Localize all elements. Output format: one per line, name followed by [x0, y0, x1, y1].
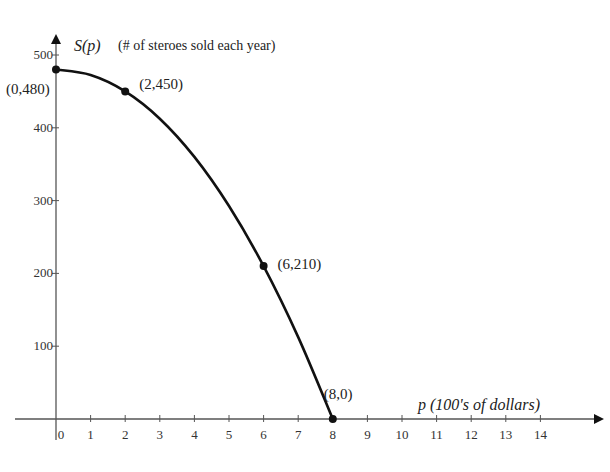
- y-axis-title-function: S(p): [74, 37, 101, 55]
- data-point-label: (0,480): [6, 81, 50, 98]
- x-tick-label: 8: [330, 427, 337, 442]
- x-tick-label: 12: [465, 427, 478, 442]
- y-tick-label: 400: [34, 120, 54, 135]
- curve-layer: [56, 70, 333, 419]
- data-point-label: (6,210): [278, 256, 322, 273]
- chart: 01234567891011121314100200300400500 (0,4…: [0, 0, 610, 472]
- x-axis-title: p (100's of dollars): [417, 396, 540, 414]
- x-axis-arrow-icon: [594, 414, 604, 424]
- x-tick-label: 14: [534, 427, 548, 442]
- y-tick-label: 500: [34, 47, 54, 62]
- x-tick-label: 13: [499, 427, 512, 442]
- y-tick-label: 300: [34, 193, 54, 208]
- y-axis-title-description: (# of steroes sold each year): [118, 38, 276, 54]
- x-tick-label: 7: [295, 427, 302, 442]
- x-tick-label: 0: [58, 427, 65, 442]
- x-tick-label: 9: [364, 427, 371, 442]
- axes: [15, 34, 604, 440]
- data-point-marker: [121, 87, 129, 95]
- x-tick-label: 11: [430, 427, 443, 442]
- curve-s-of-p: [56, 70, 333, 419]
- y-tick-label: 200: [34, 265, 54, 280]
- x-tick-label: 5: [226, 427, 233, 442]
- data-point-label: (2,450): [139, 76, 183, 93]
- x-tick-label: 3: [157, 427, 164, 442]
- data-point-label: (8,0): [324, 386, 353, 403]
- ticks: 01234567891011121314100200300400500: [34, 47, 548, 442]
- x-tick-label: 2: [122, 427, 129, 442]
- y-tick-label: 100: [34, 338, 54, 353]
- data-point-marker: [260, 262, 268, 270]
- data-point-marker: [329, 415, 337, 423]
- x-tick-label: 1: [87, 427, 94, 442]
- data-point-marker: [52, 66, 60, 74]
- x-tick-label: 6: [260, 427, 267, 442]
- points-layer: (0,480)(2,450)(6,210)(8,0): [6, 66, 353, 423]
- x-tick-label: 4: [191, 427, 198, 442]
- x-tick-label: 10: [396, 427, 409, 442]
- y-axis-arrow-icon: [51, 34, 61, 44]
